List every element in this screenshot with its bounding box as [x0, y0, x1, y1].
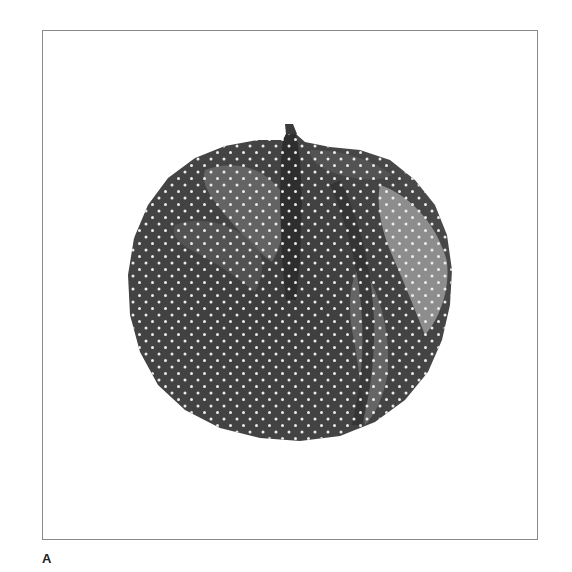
panel-label: A: [42, 552, 51, 565]
tomato-illustration: [0, 0, 572, 572]
tomato-body: [120, 120, 460, 450]
stem-tip: [285, 124, 297, 134]
